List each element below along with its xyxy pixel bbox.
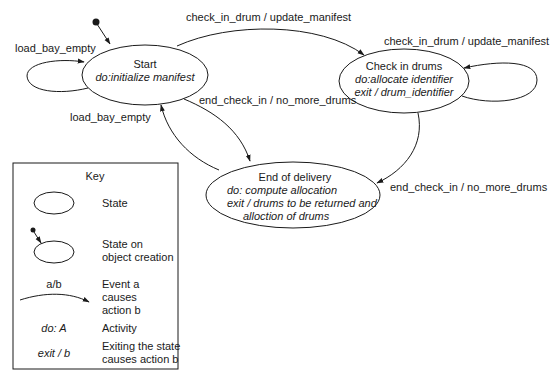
legend-desc: Event a [102, 278, 140, 290]
transition-label: check_in_drum / update_manifest [384, 35, 549, 47]
state-exit-action: exit / drums to be returned and [227, 197, 378, 209]
transition-end-to-start: load_bay_empty [70, 105, 219, 170]
legend-box [13, 163, 178, 369]
legend-title: Key [86, 170, 105, 182]
transition-arrow-icon [27, 61, 88, 92]
transition-arrow-icon [377, 113, 419, 183]
transition-arrow-icon [462, 63, 537, 101]
legend-symbol: do: A [41, 322, 66, 334]
transition-start-to-end: end_check_in / no_more_drums [184, 94, 357, 161]
legend-desc: causes [102, 291, 137, 303]
legend-desc: action b [102, 304, 141, 316]
transition-arrow-icon [161, 105, 219, 170]
initial-state-marker [93, 19, 111, 45]
legend-desc: object creation [102, 251, 174, 263]
legend-initial-dot-icon [31, 228, 36, 233]
state-exit-action-cont: alloction of drums [243, 210, 330, 222]
transition-label: end_check_in / no_more_drums [390, 181, 548, 193]
state-check-in-drums: Check in drums do:allocate identifier ex… [339, 49, 469, 113]
state-name: Check in drums [366, 60, 443, 72]
state-name: Start [133, 58, 156, 70]
transition-label: end_check_in / no_more_drums [199, 94, 357, 106]
legend-desc: Activity [102, 322, 137, 334]
legend-desc: State [102, 197, 128, 209]
transition-start-to-check-in: check_in_drum / update_manifest [177, 11, 364, 55]
state-end-of-delivery: End of delivery do: compute allocation e… [206, 162, 380, 228]
transition-label: check_in_drum / update_manifest [186, 11, 351, 23]
legend-symbol: exit / b [38, 347, 70, 359]
state-diagram: Start do:initialize manifest Check in dr… [0, 0, 553, 385]
state-activity: do:allocate identifier [355, 73, 454, 85]
legend-desc: causes action b [102, 353, 178, 365]
transition-arrow-icon [184, 99, 250, 161]
transition-arrow-icon [177, 29, 364, 55]
state-activity: do: compute allocation [227, 184, 337, 196]
state-activity: do:initialize manifest [95, 71, 195, 83]
legend-desc: State on [102, 238, 143, 250]
legend-key: Key State State on object creation a/b E… [13, 163, 180, 369]
legend-symbol: a/b [46, 278, 61, 290]
transition-label: load_bay_empty [70, 111, 151, 123]
initial-dot-icon [93, 19, 100, 26]
state-name: End of delivery [259, 171, 332, 183]
state-exit-action: exit / drum_identifier [354, 86, 454, 98]
transition-check-in-to-end: end_check_in / no_more_drums [377, 113, 548, 193]
state-start: Start do:initialize manifest [82, 45, 208, 105]
transition-label: load_bay_empty [15, 42, 96, 54]
initial-arrow-icon [97, 24, 110, 44]
legend-desc: Exiting the state [102, 340, 180, 352]
